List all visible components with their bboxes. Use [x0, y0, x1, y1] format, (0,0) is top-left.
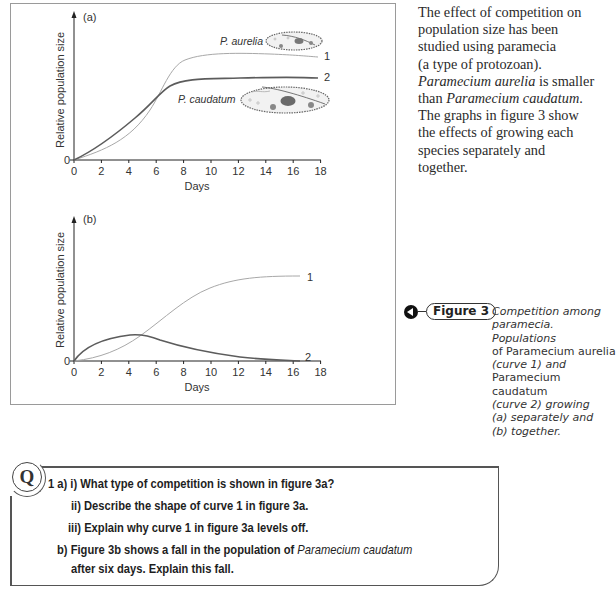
chart-b-ylabel: Relative population size [54, 232, 66, 348]
chart-a-y-zero: 0 [64, 154, 70, 166]
chart-a-title: (a) [83, 11, 96, 23]
tick: 12 [232, 165, 244, 177]
figure-name: Figure 3 [426, 303, 496, 320]
y-axis-arrow-icon [72, 11, 77, 18]
intro-line: population size has been [418, 21, 614, 38]
intro-line: together. [418, 159, 614, 176]
caption-line: Paramecium caudatum [492, 371, 616, 398]
tick: 18 [314, 165, 326, 177]
question-icon: Q [12, 462, 42, 492]
tick: 2 [98, 165, 104, 177]
tick: 6 [153, 165, 159, 177]
intro-line: The graphs in figure 3 show [418, 107, 614, 124]
caption-line: paramecia. Populations [492, 318, 556, 344]
figure-caption: Competition among paramecia. Populations… [492, 305, 616, 438]
chart-a-curve-1-label: 1 [324, 50, 330, 62]
question-b-line2: after six days. Explain this fall. [71, 561, 234, 576]
tick: 6 [153, 366, 159, 378]
question-box-border [42, 466, 499, 468]
y-axis-arrow-icon [72, 216, 77, 223]
question-b-line1: b) Figure 3b shows a fall in the populat… [57, 542, 412, 557]
connector [418, 311, 426, 312]
tick: 10 [205, 366, 217, 378]
tick: 10 [205, 165, 217, 177]
tick: 8 [181, 366, 187, 378]
caption-line: (a) separately and [492, 411, 593, 424]
chart-b-curve-2 [74, 335, 300, 361]
intro-paragraph: The effect of competition on population … [418, 4, 614, 176]
species-name: Paramecium caudatum [446, 90, 579, 106]
figure-3-charts: (a) Relative population size 0 0 2 4 6 8… [0, 0, 400, 410]
intro-line: species separately and [418, 142, 614, 159]
tick: 14 [260, 366, 272, 378]
paramecium-aurelia-icon [266, 32, 322, 50]
figure-label: Figure 3 [404, 303, 496, 320]
tick: 16 [287, 366, 299, 378]
question-a-ii: ii) Describe the shape of curve 1 in fig… [71, 498, 308, 513]
question-a-iii: iii) Explain why curve 1 in figure 3a le… [68, 520, 308, 535]
caption-line: (curve 1) and [492, 358, 566, 371]
tick: 4 [126, 366, 132, 378]
species-name: Paramecium caudatum [297, 542, 412, 557]
tick: 8 [181, 165, 187, 177]
question-box-border [10, 496, 12, 586]
caption-line: Competition among [492, 305, 601, 318]
tick: 0 [71, 165, 77, 177]
tick: 16 [287, 165, 299, 177]
arrow-left-icon [404, 305, 418, 319]
caption-line: (curve 2) growing [492, 398, 590, 411]
chart-a-ylabel: Relative population size [54, 32, 66, 148]
species-name: Paramecium aurelia [418, 73, 535, 89]
chart-b-xlabel: Days [184, 381, 210, 393]
chart-a: (a) Relative population size 0 0 2 4 6 8… [54, 11, 330, 192]
tick: 14 [260, 165, 272, 177]
intro-line: Paramecium aurelia is smaller [418, 73, 614, 90]
intro-text: . [579, 90, 583, 106]
figure-pill: Figure 3 [404, 303, 496, 320]
tick: 4 [126, 165, 132, 177]
paramecium-caudatum-icon [241, 87, 329, 113]
question-b-text: b) Figure 3b shows a fall in the populat… [57, 542, 297, 557]
intro-line: than Paramecium caudatum. [418, 90, 614, 107]
caption-line: (b) together. [492, 425, 561, 438]
chart-a-xlabel: Days [184, 180, 210, 192]
chart-b-title: (b) [83, 213, 96, 225]
intro-line: The effect of competition on [418, 4, 614, 21]
intro-line: studied using paramecia [418, 38, 614, 55]
tick: 2 [98, 366, 104, 378]
tick: 12 [232, 366, 244, 378]
intro-text: is smaller [535, 73, 594, 89]
chart-b-curve-2-label: 2 [305, 351, 311, 363]
intro-text: than [418, 90, 446, 106]
question-a-i: 1 a) i) What type of competition is show… [48, 476, 334, 491]
tick: 18 [314, 366, 326, 378]
chart-b: (b) Relative population size 0 0 2 4 6 8… [54, 213, 327, 393]
caption-line: of Paramecium aurelia [492, 345, 616, 358]
chart-b-curve-1-label: 1 [307, 271, 313, 283]
intro-line: (a type of protozoan). [418, 56, 614, 73]
chart-a-curve-2-label: 2 [324, 71, 330, 83]
aurelia-label: P. aurelia [220, 35, 263, 47]
intro-line: the effects of growing each [418, 124, 614, 141]
caudatum-label: P. caudatum [178, 93, 236, 105]
chart-b-y-zero: 0 [64, 355, 70, 367]
tick: 0 [71, 366, 77, 378]
